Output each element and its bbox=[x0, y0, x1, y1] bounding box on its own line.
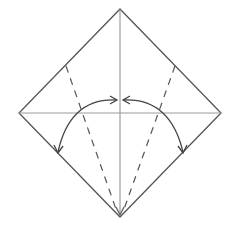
diagram-canvas bbox=[0, 0, 233, 238]
left-valley-fold bbox=[66, 66, 117, 212]
right-valley-fold bbox=[123, 66, 175, 212]
left-fold-arrow bbox=[58, 100, 116, 152]
right-fold-arrow bbox=[124, 100, 183, 152]
origami-diagram bbox=[0, 0, 233, 238]
